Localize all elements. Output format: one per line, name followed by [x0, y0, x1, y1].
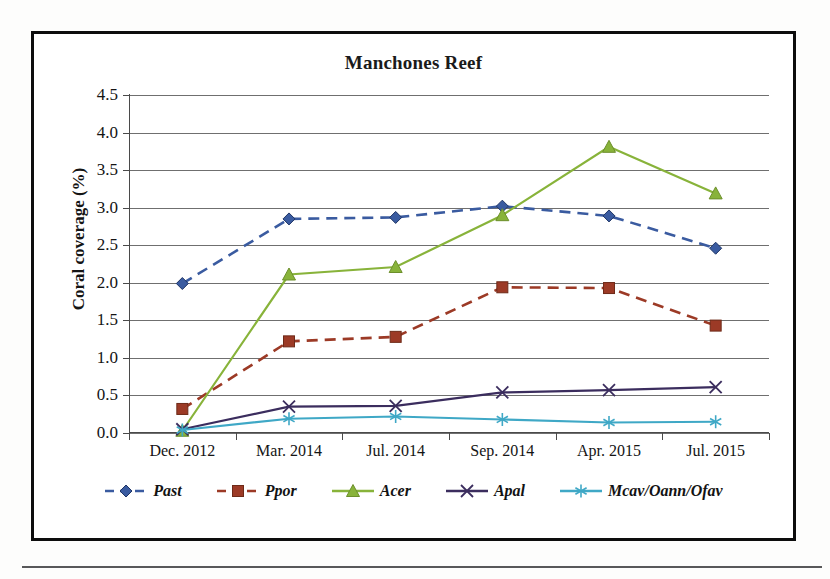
y-tick-label: 3.0 [97, 198, 118, 218]
y-tick-label: 2.0 [97, 273, 118, 293]
data-point [709, 187, 722, 199]
data-point [603, 140, 616, 152]
data-point [497, 282, 508, 293]
x-tick-label: Apr. 2015 [577, 442, 641, 460]
legend-label: Apal [494, 482, 525, 500]
y-tick-label: 0.0 [97, 423, 118, 443]
x-tick-label: Jul. 2015 [686, 442, 745, 460]
x-tick-label: Sep. 2014 [470, 442, 534, 460]
y-tick-label: 1.5 [97, 310, 118, 330]
figure-frame: Manchones Reef Coral coverage (%) 0.00.5… [31, 31, 796, 541]
document-page: Manchones Reef Coral coverage (%) 0.00.5… [0, 0, 830, 579]
series-ppor [177, 282, 721, 415]
legend-label: Past [153, 482, 181, 500]
y-tick-label: 0.5 [97, 385, 118, 405]
data-point [283, 213, 295, 225]
x-tick-mark [342, 433, 343, 440]
data-point [710, 242, 722, 254]
y-tick-label: 4.5 [97, 85, 118, 105]
series-line [182, 206, 715, 283]
legend-marker-x-icon [445, 483, 489, 499]
data-point [176, 278, 188, 290]
legend-marker-star-icon [559, 483, 603, 499]
y-tick-label: 1.0 [97, 348, 118, 368]
x-tick-mark [662, 433, 663, 440]
legend-item-mcav-oann-ofav[interactable]: Mcav/Oann/Ofav [559, 482, 723, 500]
legend-item-apal[interactable]: Apal [445, 482, 525, 500]
legend-marker-triangle-icon [331, 483, 375, 499]
x-tick-mark [129, 433, 130, 440]
x-tick-label: Jul. 2014 [366, 442, 425, 460]
data-point [604, 283, 615, 294]
page-horizontal-rule [22, 566, 822, 568]
legend-label: Ppor [265, 482, 297, 500]
series-line [182, 416, 715, 430]
series-lines [129, 95, 769, 433]
y-tick-label: 3.5 [97, 160, 118, 180]
x-tick-mark [236, 433, 237, 440]
series-past [176, 200, 721, 289]
data-point [603, 210, 615, 222]
data-point [390, 331, 401, 342]
x-tick-mark [449, 433, 450, 440]
chart-legend: PastPporAcerApalMcav/Oann/Ofav [34, 482, 793, 500]
legend-marker-diamond-icon [104, 483, 148, 499]
legend-marker-square-icon [216, 483, 260, 499]
chart-plot-wrapper: Coral coverage (%) 0.00.51.01.52.02.53.0… [34, 34, 793, 538]
legend-item-acer[interactable]: Acer [331, 482, 411, 500]
y-tick-label: 4.0 [97, 123, 118, 143]
plot-area: 0.00.51.01.52.02.53.03.54.04.5 Dec. 2012… [129, 95, 769, 433]
legend-item-past[interactable]: Past [104, 482, 181, 500]
data-point [177, 403, 188, 414]
legend-item-ppor[interactable]: Ppor [216, 482, 297, 500]
y-tick-label: 2.5 [97, 235, 118, 255]
x-tick-label: Dec. 2012 [149, 442, 215, 460]
x-tick-mark [769, 433, 770, 440]
data-point [496, 209, 509, 221]
series-apal [176, 381, 721, 435]
x-tick-label: Mar. 2014 [256, 442, 322, 460]
y-axis-title: Coral coverage (%) [69, 139, 89, 339]
x-tick-mark [556, 433, 557, 440]
legend-label: Mcav/Oann/Ofav [608, 482, 723, 500]
data-point [390, 211, 402, 223]
legend-label: Acer [380, 482, 411, 500]
series-acer [176, 140, 722, 436]
data-point [710, 320, 721, 331]
series-line [182, 287, 715, 409]
series-line [182, 147, 715, 431]
data-point [284, 336, 295, 347]
